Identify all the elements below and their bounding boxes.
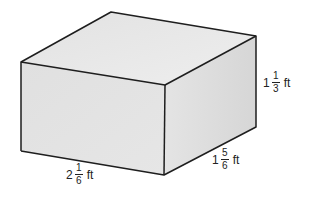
height-whole: 1 — [263, 76, 270, 90]
width-label: 1 5 6 ft — [212, 148, 239, 171]
width-denominator: 6 — [221, 161, 229, 171]
width-numerator: 5 — [221, 148, 229, 158]
height-fraction: 1 3 — [272, 71, 280, 94]
width-whole: 1 — [212, 153, 219, 167]
length-denominator: 6 — [75, 176, 83, 186]
prism-diagram: 1 1 3 ft 1 5 6 ft 2 1 6 ft — [0, 0, 310, 204]
height-label: 1 1 3 ft — [263, 71, 290, 94]
height-numerator: 1 — [272, 71, 280, 81]
length-whole: 2 — [66, 168, 73, 182]
width-fraction: 5 6 — [221, 148, 229, 171]
prism-shape — [0, 0, 310, 204]
height-denominator: 3 — [272, 84, 280, 94]
length-fraction: 1 6 — [75, 163, 83, 186]
width-unit: ft — [233, 153, 240, 167]
length-label: 2 1 6 ft — [66, 163, 93, 186]
length-unit: ft — [87, 168, 94, 182]
height-unit: ft — [284, 76, 291, 90]
length-numerator: 1 — [75, 163, 83, 173]
